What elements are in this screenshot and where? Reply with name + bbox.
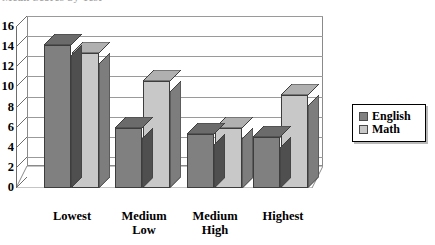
legend-label-english: English	[372, 110, 411, 122]
bar-english-1	[115, 128, 142, 188]
bar-top	[44, 34, 82, 45]
bar-face	[187, 134, 214, 188]
bar-face	[253, 137, 280, 188]
bar-face	[115, 128, 142, 188]
legend-item-math: Math	[359, 123, 420, 135]
bar-english-0	[44, 45, 71, 188]
bar-top	[143, 70, 181, 81]
bars-layer	[0, 14, 330, 210]
bar-top	[253, 126, 291, 137]
chart-legend: English Math	[352, 104, 426, 142]
bar-side	[71, 45, 82, 188]
bar-side	[142, 128, 153, 188]
bar-side	[99, 53, 110, 188]
legend-swatch-english	[359, 112, 368, 121]
bar-side	[170, 81, 181, 188]
bar-top	[115, 117, 153, 128]
legend-swatch-math	[359, 125, 368, 134]
chart-title: Mean Scores by Test	[2, 0, 102, 3]
bar-side	[214, 134, 225, 188]
plot-area: 0246810121416	[0, 14, 330, 210]
legend-item-english: English	[359, 110, 420, 122]
legend-label-math: Math	[372, 123, 400, 135]
bar-face	[44, 45, 71, 188]
bar-top	[187, 123, 225, 134]
bar-side	[280, 137, 291, 188]
bar-english-2	[187, 134, 214, 188]
x-label-highest: Highest	[238, 209, 328, 223]
bar-top	[281, 84, 319, 95]
bar-side	[242, 128, 253, 188]
bar-english-3	[253, 137, 280, 188]
bar-side	[308, 95, 319, 188]
